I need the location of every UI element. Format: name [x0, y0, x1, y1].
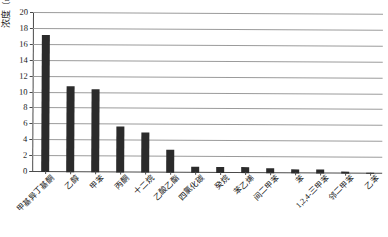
x-axis-label: 乙酸乙酯: [152, 174, 181, 203]
bar: [166, 150, 174, 173]
y-axis-tick-label: 6: [23, 119, 27, 128]
plot-area: 02468101214161820: [33, 12, 383, 171]
x-axis-label: 甲苯: [88, 174, 105, 191]
bar: [141, 133, 149, 173]
x-axis-label: 癸烷: [213, 174, 230, 191]
y-axis-tick-label: 8: [23, 103, 27, 112]
y-axis-tick-label: 10: [19, 87, 28, 96]
x-axis-label: 苯: [294, 174, 306, 186]
y-axis-tick-label: 12: [19, 71, 28, 80]
x-axis-label: 苯乙烯: [233, 174, 256, 197]
bar: [41, 35, 50, 172]
y-axis-unit-open: （mg/m: [1, 0, 11, 10]
x-axis-label: 乙苯: [363, 174, 380, 191]
y-axis-title: 浓度（mg/m3）: [0, 0, 12, 54]
x-axis-label: 丙酮: [113, 174, 130, 191]
x-axis-label: 邻二甲苯: [327, 174, 356, 203]
x-axis-label: 十二烷: [133, 174, 156, 197]
bar: [66, 86, 74, 172]
x-axis-labels: 甲基异丁基酮乙醇甲苯丙酮十二烷乙酸乙酯四氯化碳癸烷苯乙烯间二甲苯苯1,2,4-三…: [33, 174, 383, 236]
y-axis-tick-label: 20: [19, 8, 28, 17]
x-axis-label: 四氯化碳: [177, 174, 206, 203]
y-axis-tick-label: 18: [19, 24, 28, 33]
y-axis-tick-label: 4: [23, 135, 27, 144]
bars-group: [32, 12, 383, 174]
x-axis-label: 乙醇: [63, 174, 80, 191]
y-axis-tick-label: 16: [19, 39, 28, 48]
y-axis-title-text: 浓度: [1, 10, 11, 28]
x-axis-label: 间二甲苯: [252, 174, 281, 203]
y-axis-tick-label: 0: [23, 167, 27, 176]
grid-container: 02468101214161820: [32, 12, 383, 173]
bar: [91, 90, 99, 173]
y-axis-tick-label: 14: [19, 55, 28, 64]
bar: [116, 126, 124, 172]
bar-chart: 浓度（mg/m3） 02468101214161820 甲基异丁基酮乙醇甲苯丙酮…: [0, 0, 388, 237]
x-axis-label: 甲基异丁基酮: [16, 174, 56, 214]
y-axis-tick-label: 2: [23, 151, 27, 160]
